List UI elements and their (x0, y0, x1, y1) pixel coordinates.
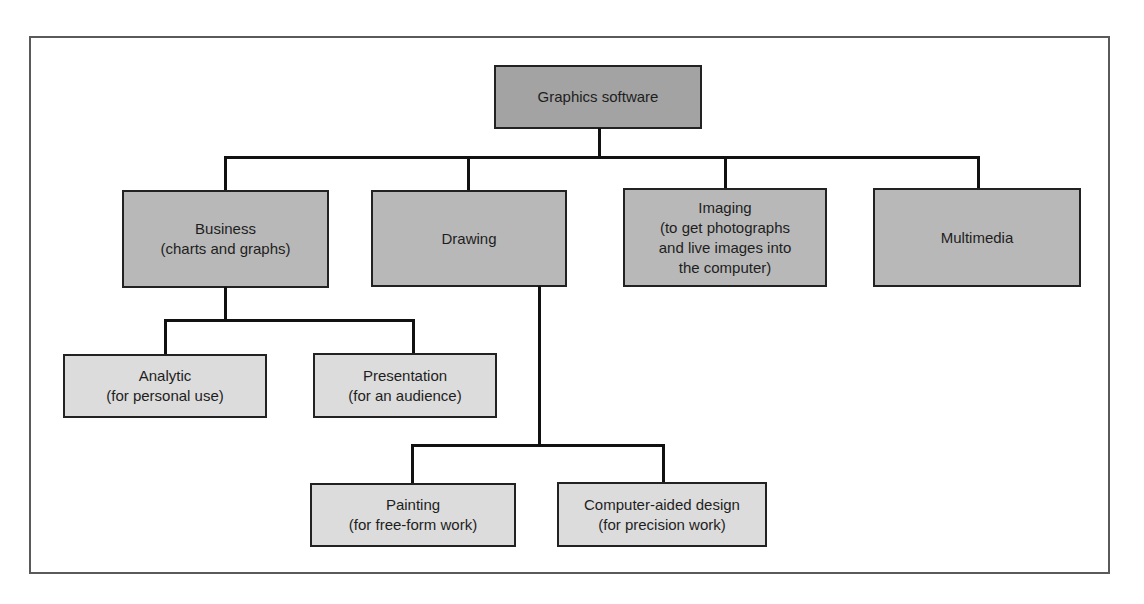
connector-to-presentation (412, 319, 415, 354)
node-title: Painting (386, 495, 440, 515)
connector-to-business (224, 156, 227, 191)
node-imaging: Imaging (to get photographs and live ima… (623, 188, 827, 287)
node-subtitle-line2: and live images into (659, 238, 792, 258)
node-multimedia: Multimedia (873, 188, 1081, 287)
node-drawing: Drawing (371, 190, 567, 287)
node-presentation: Presentation (for an audience) (313, 353, 497, 418)
connector-to-cad (662, 444, 665, 483)
node-business: Business (charts and graphs) (122, 190, 329, 288)
node-subtitle: (for free-form work) (349, 515, 477, 535)
node-subtitle: (charts and graphs) (160, 239, 290, 259)
node-title: Presentation (363, 366, 447, 386)
node-title: Multimedia (941, 228, 1014, 248)
connector-to-painting (411, 444, 414, 484)
node-subtitle-line3: the computer) (679, 258, 772, 278)
node-subtitle: (for precision work) (598, 515, 726, 535)
node-painting: Painting (for free-form work) (310, 483, 516, 547)
connector-to-imaging (724, 156, 727, 189)
node-computer-aided-design: Computer-aided design (for precision wor… (557, 482, 767, 547)
node-title: Business (195, 219, 256, 239)
node-graphics-software: Graphics software (494, 65, 702, 129)
connector-to-analytic (164, 319, 167, 355)
node-subtitle-line1: (to get photographs (660, 218, 790, 238)
connector-to-multimedia (977, 156, 980, 191)
node-title: Imaging (698, 198, 751, 218)
connector-business-down (224, 287, 227, 321)
connector-business-bar (164, 319, 415, 322)
node-title: Drawing (441, 229, 496, 249)
connector-drawing-down (538, 286, 541, 446)
node-label: Graphics software (538, 87, 659, 107)
node-title: Analytic (139, 366, 192, 386)
connector-level1-bar (224, 156, 980, 159)
node-analytic: Analytic (for personal use) (63, 354, 267, 418)
node-subtitle: (for an audience) (348, 386, 461, 406)
connector-root-down (598, 128, 601, 158)
node-title: Computer-aided design (584, 495, 740, 515)
node-subtitle: (for personal use) (106, 386, 224, 406)
connector-drawing-bar (411, 444, 665, 447)
connector-to-drawing (467, 156, 470, 191)
